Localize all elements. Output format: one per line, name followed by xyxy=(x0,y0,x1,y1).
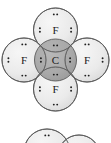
electron-dot xyxy=(56,74,58,76)
electron-dot xyxy=(56,13,58,15)
electron-dot xyxy=(102,57,104,59)
electron-dot xyxy=(88,75,90,77)
electron-dot xyxy=(69,61,71,63)
electron-dot xyxy=(70,31,72,33)
electron-dot xyxy=(84,75,86,77)
atom-label-fluorine-left: F xyxy=(21,54,27,66)
electron-dot xyxy=(102,61,104,63)
electron-dot xyxy=(7,57,9,59)
electron-dot xyxy=(21,43,23,45)
electron-dot xyxy=(70,27,72,29)
electron-dot xyxy=(44,134,46,136)
electron-dot xyxy=(48,134,50,136)
electron-dot xyxy=(56,104,58,106)
cf4-diagram: FFFFC xyxy=(0,0,111,143)
lewis-structure-figure: FFFFC xyxy=(0,0,111,143)
electron-dot xyxy=(53,104,55,106)
atom-label-carbon-center: C xyxy=(52,54,59,66)
electron-dot xyxy=(25,75,27,77)
diagram-canvas: FFFFC xyxy=(0,0,111,143)
atom-label-fluorine-right: F xyxy=(84,54,90,66)
electron-dot xyxy=(53,13,55,15)
electron-dot xyxy=(39,27,41,29)
electron-dot xyxy=(70,90,72,92)
electron-dot xyxy=(53,44,55,46)
electron-dot xyxy=(40,57,42,59)
electron-dot xyxy=(40,61,42,63)
electron-dot xyxy=(25,43,27,45)
primary-structure-group: FFFFC xyxy=(2,8,109,111)
electron-dot xyxy=(21,75,23,77)
secondary-structure-group xyxy=(24,129,100,143)
electron-dot xyxy=(56,44,58,46)
electron-dot xyxy=(53,74,55,76)
electron-dot xyxy=(70,86,72,88)
electron-dot xyxy=(39,31,41,33)
electron-dot xyxy=(39,86,41,88)
atom-label-fluorine-bottom: F xyxy=(52,83,58,95)
atom-label-fluorine-top: F xyxy=(52,24,58,36)
electron-dot xyxy=(7,61,9,63)
electron-dot xyxy=(39,90,41,92)
electron-dot xyxy=(84,43,86,45)
electron-dot xyxy=(88,43,90,45)
electron-dot xyxy=(69,57,71,59)
